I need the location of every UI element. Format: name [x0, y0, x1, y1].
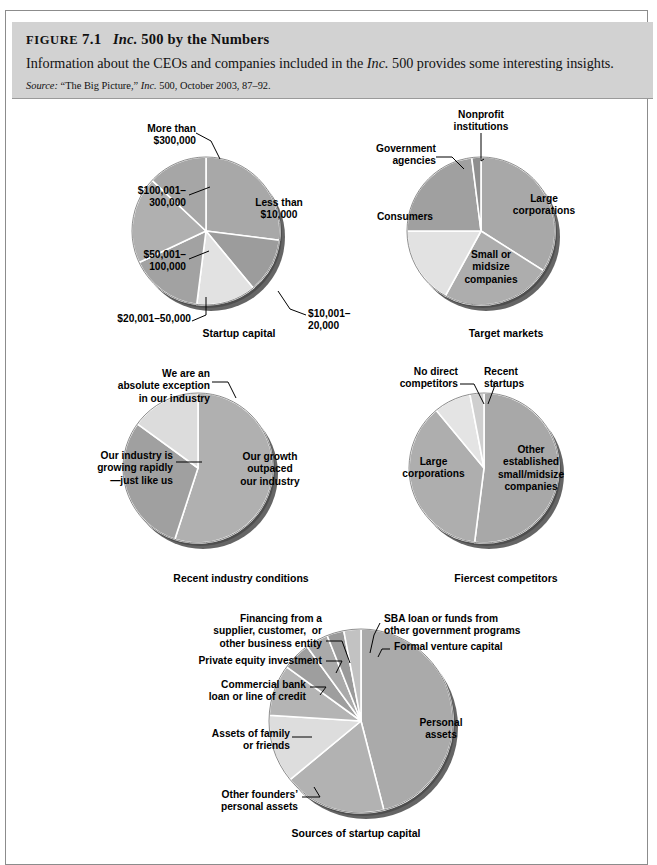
- caption-recent-industry-conditions: Recent industry conditions: [141, 572, 341, 584]
- label-other-founders-personal-assets: Other founders’ personal assets: [146, 789, 298, 814]
- figure-frame: FIGURE 7.1 Inc. 500 by the Numbers Infor…: [5, 10, 648, 865]
- label-nonprofit-institutions: Nonprofit institutions: [426, 109, 536, 134]
- caption-startup-capital: Startup capital: [169, 327, 309, 339]
- label-other-established-companies: Other established small/midsize companie…: [476, 444, 586, 494]
- label-government-agencies: Government agencies: [326, 143, 436, 168]
- chart-sources-of-startup-capital: Financing from a supplier, customer, or …: [6, 599, 649, 861]
- label-less-than-10000: Less than $10,000: [234, 197, 324, 222]
- figure-title-rest: 500 by the Numbers: [141, 31, 269, 47]
- label-consumers: Consumers: [360, 211, 450, 223]
- source-post: 500, October 2003, 87–92.: [157, 80, 271, 91]
- label-more-than-300000: More than $300,000: [86, 123, 196, 148]
- label-recent-startups: Recent startups: [484, 366, 584, 391]
- chart-startup-capital: More than $300,000 $100,001– 300,000 $50…: [6, 101, 336, 361]
- figure-header-band: FIGURE 7.1 Inc. 500 by the Numbers Infor…: [12, 22, 653, 99]
- description-pre: Information about the CEOs and companies…: [26, 55, 367, 71]
- leader-line: [278, 291, 306, 315]
- description-italic: Inc.: [367, 55, 389, 71]
- description-post: 500 provides some interesting insights.: [388, 55, 613, 71]
- label-small-or-midsize-companies: Small or midsize companies: [446, 249, 536, 286]
- label-no-direct-competitors: No direct competitors: [348, 366, 458, 391]
- label-20001-50000: $20,001–50,000: [46, 313, 191, 325]
- caption-fiercest-competitors: Fiercest competitors: [426, 572, 586, 584]
- chart-fiercest-competitors: No direct competitors Recent startups La…: [336, 356, 656, 601]
- figure-description: Information about the CEOs and companies…: [26, 55, 614, 72]
- label-formal-venture-capital: Formal venture capital: [394, 641, 584, 653]
- figure-label: FIGURE: [26, 33, 78, 47]
- label-large-corporations: Large corporations: [499, 193, 589, 218]
- source-label: Source:: [26, 80, 58, 91]
- label-financing-from-supplier: Financing from a supplier, customer, or …: [154, 613, 322, 650]
- label-absolute-exception: We are an absolute exception in our indu…: [50, 368, 210, 405]
- leader-line: [196, 133, 220, 159]
- label-industry-growing-rapidly: Our industry is growing rapidly —just li…: [38, 450, 173, 487]
- label-50001-100000: $50,001– 100,000: [76, 249, 186, 274]
- label-personal-assets: Personal assets: [396, 717, 486, 742]
- label-large-corporations-2: Large corporations: [386, 456, 481, 481]
- label-growth-outpaced-industry: Our growth outpaced our industry: [220, 451, 320, 488]
- label-assets-of-family-or-friends: Assets of family or friends: [146, 728, 290, 753]
- figure-title: FIGURE 7.1 Inc. 500 by the Numbers: [26, 31, 269, 48]
- source-pre: “The Big Picture,”: [58, 80, 141, 91]
- caption-target-markets: Target markets: [436, 327, 576, 339]
- figure-title-italic: Inc.: [113, 31, 138, 47]
- caption-sources-of-startup-capital: Sources of startup capital: [256, 827, 456, 839]
- figure-number: 7.1: [82, 31, 101, 47]
- label-commercial-bank-loan: Commercial bank loan or line of credit: [146, 679, 306, 704]
- label-private-equity-investment: Private equity investment: [146, 655, 322, 667]
- chart-target-markets: Nonprofit institutions Government agenci…: [336, 101, 656, 361]
- pie-target-markets: [336, 101, 656, 351]
- source-italic: Inc.: [141, 80, 157, 91]
- label-100001-300000: $100,001– 300,000: [76, 185, 186, 210]
- label-sba-loan: SBA loan or funds from other government …: [384, 613, 590, 638]
- figure-source: Source: “The Big Picture,” Inc. 500, Oct…: [26, 80, 271, 91]
- chart-recent-industry-conditions: We are an absolute exception in our indu…: [6, 356, 336, 601]
